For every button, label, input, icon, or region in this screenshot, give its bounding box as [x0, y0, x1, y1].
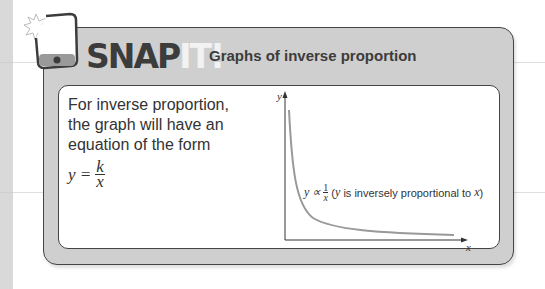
- x-axis-label: x: [466, 241, 471, 253]
- annotation-denominator: x: [324, 193, 328, 202]
- inverse-proportion-graph: [268, 90, 498, 250]
- formula-fraction: k x: [95, 160, 105, 189]
- formula: y = k x: [68, 160, 105, 189]
- formula-lhs: y =: [68, 165, 91, 185]
- annotation-text: is inversely proportional to: [340, 187, 474, 199]
- graph-annotation: y ∝ 1 x ( y is inversely proportional to…: [304, 183, 483, 202]
- formula-denominator: x: [96, 175, 104, 189]
- text-line: the graph will have an: [68, 115, 229, 135]
- snapit-logo: SNAPIT!: [86, 37, 223, 77]
- logo-snap: SNAP: [86, 37, 179, 76]
- annotation-fraction: 1 x: [323, 183, 328, 202]
- annotation-close-paren: ): [480, 187, 484, 199]
- y-axis-label: y: [277, 90, 282, 102]
- text-line: equation of the form: [68, 135, 229, 155]
- explanation-text: For inverse proportion, the graph will h…: [68, 95, 229, 155]
- phone-icon: [22, 8, 82, 73]
- annotation-lhs: y ∝: [304, 185, 321, 200]
- section-title: Graphs of inverse proportion: [209, 47, 417, 64]
- text-line: For inverse proportion,: [68, 95, 229, 115]
- page-margin-strip: [0, 0, 13, 289]
